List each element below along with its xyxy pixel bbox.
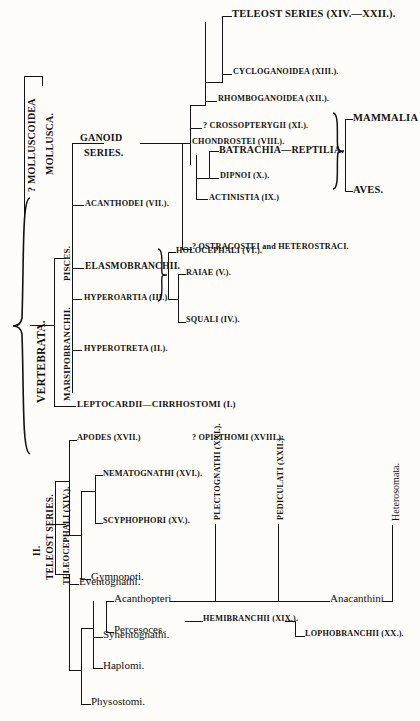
mammalia-stem (345, 119, 353, 120)
anacanthini-to-heteros (382, 601, 392, 602)
cycloganoidea-stem (222, 74, 232, 75)
label-ganoid-series-line2: SERIES. (84, 148, 123, 158)
label-pisces: PISCES. (63, 246, 72, 281)
ganoid-stem-left (82, 143, 104, 144)
physostomi-join (69, 670, 81, 671)
physostomi-stem (81, 704, 91, 705)
label-rhomboganoidea: RHOMBOGANOIDEA (XII.). (218, 95, 329, 103)
label-pediculati: PEDICULATI (XXII.). (277, 436, 285, 520)
label-cycloganoidea: CYCLOGANOIDEA (XIII.). (233, 68, 339, 76)
brace-mammalia-aves (331, 112, 345, 190)
ganoid-lower-spine (182, 143, 183, 249)
lower-main-spine (69, 574, 70, 670)
gymnonoti-spine (81, 491, 82, 579)
nematognathi-scyphophori-join (81, 491, 96, 492)
stub-mollusca (42, 76, 43, 86)
nematognathi-scyphophori-spine (95, 475, 96, 523)
scyphophori-stem (95, 523, 103, 524)
dipnoi-stem (209, 178, 219, 179)
pisces-top-arm (72, 143, 82, 144)
label-hyperotreta: HYPEROTRETA (II.). (84, 345, 168, 353)
acanthopteri-long-rail (170, 601, 330, 602)
diagram-canvas: ? MOLLUSCOIDEA MOLLUSCA. VERTEBRATA. PIS… (0, 0, 420, 721)
label-marsipobranchii: MARSIPOBRANCHII. (63, 307, 72, 401)
label-heterosomata: Heterosomata. (391, 463, 401, 521)
lophobranchii-stem (295, 636, 305, 637)
apodes-stem (69, 440, 77, 441)
cycloganoidea-riser (222, 62, 223, 75)
label-anacanthini: Anacanthini (330, 593, 384, 604)
percoid-join (81, 628, 94, 629)
label-ganoid-series-line1: GANOID (80, 133, 122, 143)
batrachia-dipnoi-spine (209, 151, 210, 178)
holocephali-bottom-join (168, 299, 178, 300)
label-hemibranchii: HEMIBRANCHII (XIX.). (203, 615, 298, 623)
hyperoartia-stem (72, 299, 82, 300)
actinistia-stem (196, 199, 208, 200)
label-teleost-series: TELEOST SERIES (XIV.—XXII.). (232, 9, 396, 20)
label-plectognathi: PLECTOGNATHI (XXI.). (214, 423, 222, 520)
raiae-stem (178, 274, 186, 275)
teleocephali-top-arm (55, 481, 69, 482)
label-opisthomi: ? OPISTHOMI (XVIII.). (192, 434, 284, 442)
rhomboganoidea-stem (205, 101, 217, 102)
mammalia-aves-spine (345, 119, 346, 191)
acanthopteri-stem (106, 601, 114, 602)
squali-stem (178, 322, 186, 323)
branch-to-leptocardii (54, 406, 66, 407)
brace-elasmobranchii (156, 248, 168, 302)
aves-stem (345, 191, 353, 192)
apodes-spine (69, 440, 70, 535)
hemibranchii-rail-right (285, 621, 295, 622)
label-raiae: RAIAE (V.). (186, 269, 231, 277)
label-eventognathi: Eventognathi. (79, 576, 140, 587)
holocephali-stem (168, 252, 176, 253)
label-batrachia-reptilia: BATRACHIA—REPTILIA. (219, 145, 344, 155)
marsipo-spine (72, 268, 73, 393)
label-acanthopteri: Acanthopteri (114, 593, 171, 604)
crossopterygii-stem (190, 128, 202, 129)
label-apodes: APODES (XVII.) (77, 434, 141, 442)
label-actinistia: ACTINISTIA (IX.) (209, 194, 279, 202)
haplomi-stem (93, 668, 103, 669)
label-leptocardii: LEPTOCARDII—CIRRHOSTOMI (I.) (77, 400, 236, 409)
batrachia-dipnoi-join (196, 178, 210, 179)
teleocephali-bottom-arm (55, 574, 69, 575)
teleost-cyclo-spine (205, 22, 206, 106)
dipnoi-actinistia-spine (196, 155, 197, 199)
nematognathi-stem (95, 475, 103, 476)
synentognathi-stem (93, 637, 103, 638)
label-crossopterygii: ? CROSSOPTERYGII (XI.). (203, 122, 308, 130)
label-aves: AVES. (353, 185, 383, 196)
teleocephali-spine (55, 481, 56, 574)
vertebrata-spine (54, 258, 55, 406)
brace-vertebrata (10, 196, 32, 456)
teleost-branch-join (205, 82, 223, 83)
label-holocephali: HOLOCEPHALI (VI.). (176, 247, 262, 255)
connector-mollusc-top (24, 76, 43, 77)
vertebrata-stem (30, 325, 54, 326)
label-haplomi: Haplomi. (103, 660, 144, 671)
percoid-spine (93, 601, 94, 668)
apodes-group-join (69, 535, 81, 536)
branch-marsipo-top (54, 258, 66, 259)
acanthodei-stem (72, 205, 84, 206)
label-dipnoi: DIPNOI (X.). (220, 172, 269, 180)
lophobranchii-drop (295, 621, 296, 636)
raiae-squali-spine (178, 274, 179, 322)
plectognathi-riser (215, 524, 216, 602)
label-synentognathi: Synentognathi. (103, 629, 169, 640)
hyperotreta-stem (72, 350, 82, 351)
label-molluscoidea: ? MOLLUSCOIDEA (27, 98, 37, 192)
label-nematognathi: NEMATOGNATHI (XVI.). (103, 470, 202, 478)
elasmobranchii-stem (72, 268, 84, 269)
teleost-rhombo-join (190, 105, 206, 106)
pediculati-riser (278, 524, 279, 602)
label-scyphophori: SCYPHOPHORI (XV.). (103, 517, 190, 525)
eventognathi-stem (69, 584, 79, 585)
heterosomata-riser (392, 525, 393, 602)
label-teleost-series-num: II. (33, 546, 43, 556)
label-physostomi: Physostomi. (91, 696, 145, 707)
label-mammalia: MAMMALIA (353, 113, 418, 124)
label-vertebrata: VERTEBRATA. (36, 320, 48, 403)
